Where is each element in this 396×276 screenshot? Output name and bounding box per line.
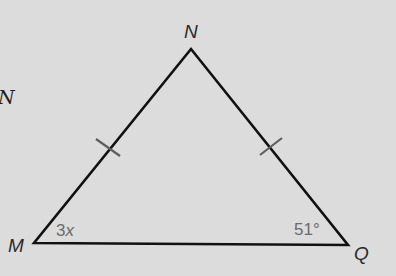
triangle-diagram: N N M Q 3x 51° xyxy=(0,0,396,276)
vertex-label-q: Q xyxy=(354,243,369,264)
angle-m-variable: x xyxy=(64,221,74,240)
cut-off-vertex-label: N xyxy=(0,86,16,108)
angle-label-m: 3x xyxy=(56,221,74,240)
angle-m-coefficient: 3 xyxy=(56,221,65,240)
vertex-label-n: N xyxy=(184,21,198,42)
angle-label-q: 51° xyxy=(294,220,320,239)
vertex-label-m: M xyxy=(8,235,24,256)
